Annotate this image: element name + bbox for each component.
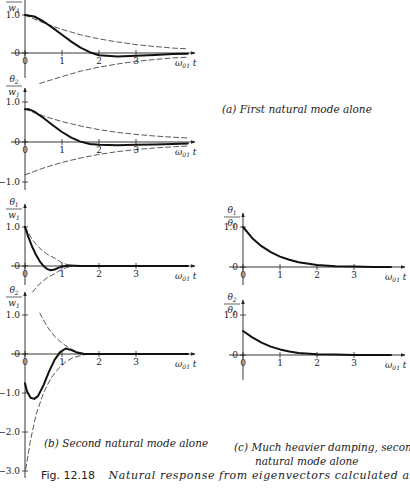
- x-tick-label: 0: [22, 357, 28, 367]
- envelope-curve: [40, 313, 84, 354]
- caption-panel-a: (a) First natural mode alone: [222, 103, 372, 115]
- x-tick-label: 0: [240, 358, 246, 368]
- caption-panel-c-line1: (c) Much heavier damping, second: [234, 441, 410, 453]
- x-tick-label: 2: [96, 357, 102, 367]
- svg-text:w1: w1: [8, 3, 20, 14]
- x-tick-label: 2: [314, 270, 320, 280]
- y-tick-label: 1.0: [6, 97, 21, 107]
- x-tick-label: 2: [96, 269, 102, 279]
- envelope-curve: [25, 15, 188, 49]
- plot-c2: 01231.00ω01 tθ2θ1: [224, 292, 407, 380]
- x-axis-label: ω01 t: [175, 147, 197, 158]
- y-tick-label: 0: [14, 349, 20, 359]
- x-tick-label: 0: [22, 56, 28, 66]
- svg-text:w1: w1: [8, 298, 20, 309]
- y-axis-label: θ1w1: [6, 197, 22, 221]
- figure-caption-text: Natural response from eigenvectors calcu…: [109, 469, 410, 482]
- y-axis-label: θ2w1: [6, 74, 22, 98]
- svg-text:w1: w1: [8, 210, 20, 221]
- y-axis-label: θ1w1: [6, 0, 22, 14]
- figure-caption: Fig. 12.18 Natural response from eigenve…: [41, 469, 410, 482]
- y-tick-label: 1.0: [6, 310, 21, 320]
- plot-c1: 01231.00ω01 tθ1θ1: [224, 205, 407, 285]
- svg-text:θ2: θ2: [227, 292, 236, 303]
- x-tick-label: 1: [59, 56, 65, 66]
- plot-a2: 01231.00−1.0ω01 tθ2w1: [0, 74, 197, 190]
- y-tick-label: −1.0: [0, 388, 20, 398]
- x-axis-label: ω01 t: [175, 271, 197, 282]
- x-tick-label: 1: [277, 270, 283, 280]
- figure-canvas: 01231.00ω01 tθ1w101231.00−1.0ω01 tθ2w101…: [0, 0, 410, 489]
- y-tick-label: 0: [14, 261, 20, 271]
- figure-number: Fig. 12.18: [41, 469, 95, 482]
- y-tick-label: 0: [232, 262, 238, 272]
- caption-panel-b: (b) Second natural mode alone: [44, 437, 208, 449]
- x-axis-label: ω01 t: [385, 272, 407, 283]
- x-tick-label: 2: [96, 56, 102, 66]
- response-curve: [25, 109, 188, 145]
- svg-text:θ1: θ1: [9, 197, 18, 208]
- plot-a1: 01231.00ω01 tθ1w1: [6, 0, 197, 83]
- svg-text:θ1: θ1: [227, 305, 236, 316]
- y-tick-label: −3.0: [0, 466, 20, 476]
- x-tick-label: 2: [314, 358, 320, 368]
- plot-b1: 01231.00ω01 tθ1w1: [6, 197, 197, 292]
- x-tick-label: 1: [277, 358, 283, 368]
- envelope-curve: [26, 355, 84, 469]
- caption-panel-c-line2: natural mode alone: [255, 455, 358, 467]
- response-curve: [243, 227, 391, 267]
- svg-text:θ1: θ1: [9, 0, 18, 1]
- y-tick-label: 1.0: [6, 222, 21, 232]
- x-tick-label: 3: [133, 269, 139, 279]
- x-tick-label: 0: [22, 145, 28, 155]
- response-curve: [243, 331, 391, 355]
- x-tick-label: 0: [240, 270, 246, 280]
- y-tick-label: 0: [14, 137, 20, 147]
- svg-text:θ1: θ1: [227, 218, 236, 229]
- y-tick-label: 0: [14, 48, 20, 58]
- x-tick-label: 3: [133, 357, 139, 367]
- x-axis-label: ω01 t: [175, 359, 197, 370]
- x-tick-label: 3: [351, 270, 357, 280]
- svg-text:θ1: θ1: [227, 205, 236, 216]
- envelope-curve: [25, 146, 188, 175]
- x-axis-label: ω01 t: [175, 58, 197, 69]
- x-axis-label: ω01 t: [385, 360, 407, 371]
- plot-b2: 01231.00−1.0−2.0−3.0ω01 tθ2w1: [0, 285, 197, 478]
- y-axis-label: θ2w1: [6, 285, 22, 309]
- x-tick-label: 3: [351, 358, 357, 368]
- x-tick-label: 2: [96, 145, 102, 155]
- response-curve: [25, 349, 188, 399]
- svg-text:θ2: θ2: [9, 74, 18, 85]
- y-tick-label: −1.0: [0, 177, 20, 187]
- x-tick-label: 0: [22, 269, 28, 279]
- svg-text:w1: w1: [8, 87, 20, 98]
- x-tick-label: 1: [59, 145, 65, 155]
- y-tick-label: 0: [232, 350, 238, 360]
- svg-text:θ2: θ2: [9, 285, 18, 296]
- response-curve: [25, 15, 188, 56]
- response-curve: [25, 227, 188, 270]
- y-tick-label: −2.0: [0, 427, 20, 437]
